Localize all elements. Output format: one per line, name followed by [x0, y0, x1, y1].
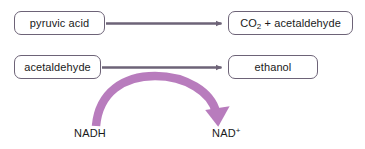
fermentation-diagram: pyruvic acid CO2 + acetaldehyde acetalde…	[0, 0, 365, 149]
node-acetaldehyde-label: acetaldehyde	[24, 62, 91, 73]
node-co2-acetaldehyde: CO2 + acetaldehyde	[228, 11, 353, 35]
nadh-to-nad-arc-icon	[96, 76, 230, 127]
node-co2-acetaldehyde-label: CO2 + acetaldehyde	[240, 18, 341, 29]
cofactor-label-nad-plus: NAD+	[212, 128, 241, 139]
cofactor-label-nadh: NADH	[74, 128, 106, 139]
node-ethanol-label: ethanol	[255, 62, 292, 73]
node-pyruvic-acid-label: pyruvic acid	[30, 18, 89, 29]
node-acetaldehyde: acetaldehyde	[14, 55, 101, 79]
node-ethanol: ethanol	[228, 55, 318, 79]
node-pyruvic-acid: pyruvic acid	[14, 11, 105, 35]
